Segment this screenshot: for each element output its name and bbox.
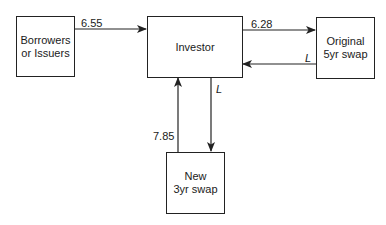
node-original-swap: Original 5yr swap — [316, 17, 375, 79]
node-investor: Investor — [147, 16, 243, 78]
edge-label-investor-to-original: 6.28 — [251, 18, 272, 30]
edge-label-borrowers-to-investor: 6.55 — [81, 17, 102, 29]
node-borrowers: Borrowers or Issuers — [16, 16, 75, 77]
edge-label-investor-to-new: L — [216, 83, 222, 95]
edge-label-new-to-investor: 7.85 — [153, 130, 174, 142]
node-borrowers-line1: Borrowers — [20, 34, 70, 47]
node-new-line2: 3yr swap — [173, 183, 217, 196]
node-original-line1: Original — [323, 35, 367, 48]
node-new-line1: New — [173, 170, 217, 183]
node-original-line2: 5yr swap — [323, 48, 367, 61]
node-borrowers-line2: or Issuers — [20, 47, 70, 60]
node-new-swap: New 3yr swap — [166, 152, 225, 214]
edge-label-original-to-investor: L — [305, 52, 311, 64]
node-investor-label: Investor — [175, 41, 214, 54]
